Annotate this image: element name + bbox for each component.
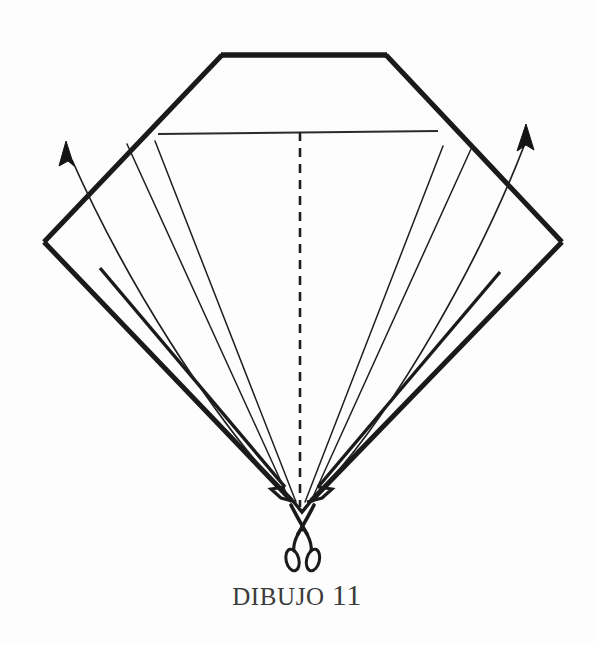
scissors-pivot <box>301 528 304 531</box>
figure-caption-number: 11 <box>325 578 362 611</box>
figure-caption-label: DIBUJO <box>232 583 325 610</box>
figure-background <box>0 0 594 645</box>
origami-instruction-figure <box>0 0 594 645</box>
figure-page: DIBUJO11 <box>0 0 594 645</box>
figure-caption: DIBUJO11 <box>0 578 594 612</box>
